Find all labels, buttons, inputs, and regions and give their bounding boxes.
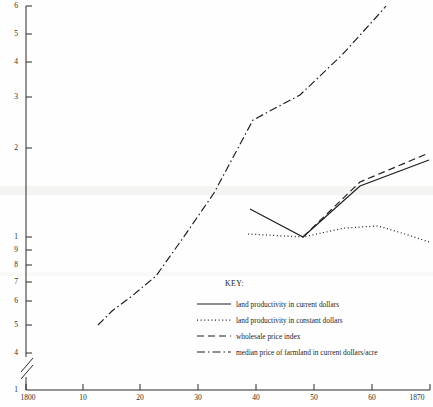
legend-title: KEY: bbox=[225, 279, 433, 288]
x-tick-label: 40 bbox=[244, 394, 268, 402]
legend-label: land productivity in current dollars bbox=[236, 300, 339, 309]
x-tick-label: 20 bbox=[128, 394, 152, 402]
y-tick-label: 4 bbox=[2, 58, 18, 66]
x-tick-label: 1870 bbox=[402, 394, 432, 402]
x-tick-label: 10 bbox=[71, 394, 95, 402]
y-tick-label: 9 bbox=[2, 246, 18, 254]
y-axis-ticks bbox=[26, 6, 32, 353]
x-tick-label: 30 bbox=[186, 394, 210, 402]
legend-swatch-dotted-icon bbox=[197, 316, 231, 324]
series-median-price-of-farmland bbox=[98, 6, 386, 325]
y-tick-label: 6 bbox=[2, 297, 18, 305]
legend-item-land-productivity-constant: land productivity in constant dollars bbox=[197, 312, 433, 328]
legend-item-median-price-of-farmland: median price of farmland in current doll… bbox=[197, 344, 433, 360]
x-tick-label: 1800 bbox=[12, 394, 44, 402]
x-tick-label: 50 bbox=[302, 394, 326, 402]
chart-legend: KEY: land productivity in current dollar… bbox=[197, 279, 433, 360]
y-tick-label: 1 bbox=[2, 386, 18, 394]
y-tick-label: 8 bbox=[2, 261, 18, 269]
y-tick-label: 2 bbox=[2, 144, 18, 152]
y-tick-label: 5 bbox=[2, 30, 18, 38]
legend-label: wholesale price index bbox=[236, 332, 300, 341]
x-axis-ticks bbox=[26, 384, 430, 390]
y-tick-label: 3 bbox=[2, 93, 18, 101]
legend-swatch-dashed-icon bbox=[197, 332, 231, 340]
series-land-productivity-current bbox=[250, 160, 429, 237]
y-tick-label: 7 bbox=[2, 278, 18, 286]
legend-item-land-productivity-current: land productivity in current dollars bbox=[197, 296, 433, 312]
y-tick-label: 1 bbox=[2, 233, 18, 241]
series-wholesale-price-index bbox=[303, 153, 429, 237]
series-land-productivity-constant bbox=[248, 226, 429, 242]
legend-swatch-solid-icon bbox=[197, 300, 231, 308]
x-tick-label: 60 bbox=[360, 394, 384, 402]
legend-swatch-dashdot-icon bbox=[197, 348, 231, 356]
y-tick-label: 6 bbox=[2, 2, 18, 10]
axis-break-mark bbox=[21, 365, 33, 379]
y-tick-label: 5 bbox=[2, 321, 18, 329]
legend-label: median price of farmland in current doll… bbox=[236, 348, 378, 357]
y-tick-label: 4 bbox=[2, 349, 18, 357]
chart-figure: 6 5 4 3 2 1 9 8 7 6 5 4 1 1800 10 20 30 … bbox=[0, 0, 433, 407]
axis-break-mark bbox=[21, 358, 33, 372]
legend-item-wholesale-price-index: wholesale price index bbox=[197, 328, 433, 344]
legend-label: land productivity in constant dollars bbox=[236, 316, 343, 325]
